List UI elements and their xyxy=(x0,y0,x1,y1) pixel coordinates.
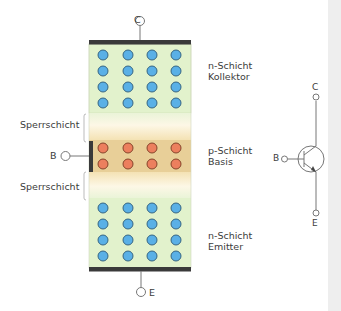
collector-contact-bar xyxy=(89,40,191,45)
basis-label: Basis xyxy=(208,156,233,167)
sperrschicht-bottom-label: Sperrschicht xyxy=(20,181,79,192)
n-top-label: n-Schicht xyxy=(208,60,252,71)
terminal-e-label: E xyxy=(149,287,155,298)
terminal-c-label: C xyxy=(134,14,141,25)
kollektor-label: Kollektor xyxy=(208,71,250,82)
symbol-e-label: E xyxy=(312,218,318,229)
terminal-b-label: B xyxy=(50,150,57,161)
sperrschicht-top-label: Sperrschicht xyxy=(20,119,79,130)
bracket-bottom xyxy=(84,172,86,200)
junction-bottom xyxy=(89,172,191,198)
p-label: p-Schicht xyxy=(208,145,252,156)
base-contact-bar xyxy=(89,141,93,172)
base-terminal xyxy=(61,152,89,161)
bracket-top xyxy=(84,114,86,142)
junction-top xyxy=(89,113,191,140)
npn-symbol-icon xyxy=(282,94,325,216)
emitter-contact-bar xyxy=(89,267,191,272)
symbol-c-label: C xyxy=(312,82,318,93)
n-bottom-label: n-Schicht xyxy=(208,230,252,241)
emitter-terminal xyxy=(137,271,146,297)
emitter-label: Emitter xyxy=(208,241,243,252)
symbol-b-label: B xyxy=(273,153,279,164)
